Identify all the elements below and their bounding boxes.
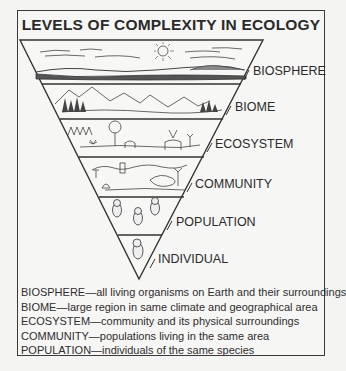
level-label-biome: BIOME — [235, 100, 275, 114]
level-label-population: POPULATION — [176, 215, 256, 229]
owl-icon — [134, 208, 143, 226]
definition-biosphere: BIOSPHERE—all living organisms on Earth … — [21, 285, 346, 300]
definition-biome: BIOME—large region in same climate and g… — [21, 300, 346, 315]
level-label-biosphere: BIOSPHERE — [253, 64, 326, 78]
definition-ecosystem: ECOSYSTEM—community and its physical sur… — [21, 314, 346, 329]
definitions-list: BIOSPHERE—all living organisms on Earth … — [21, 285, 346, 358]
owl-icon — [151, 198, 160, 216]
level-label-individual: INDIVIDUAL — [158, 252, 228, 266]
owl-icon — [113, 200, 122, 218]
definition-community: COMMUNITY—populations living in the same… — [21, 329, 346, 344]
definition-population: POPULATION—individuals of the same speci… — [21, 343, 346, 358]
level-label-community: COMMUNITY — [195, 177, 272, 191]
level-label-ecosystem: ECOSYSTEM — [215, 137, 294, 151]
